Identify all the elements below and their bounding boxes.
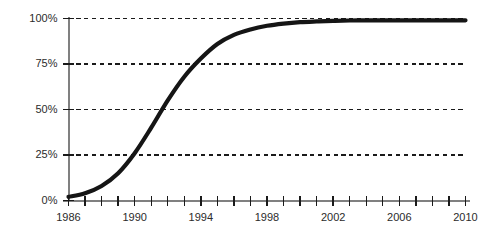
x-axis-tick-labels: 1986199019941998200220062010: [56, 211, 477, 223]
gridlines: [69, 19, 466, 156]
chart-container: 100%75%50%25%0% 198619901994199820022006…: [0, 0, 499, 243]
x-tick-label-1994: 1994: [189, 211, 213, 223]
y-tick-label-25: 25%: [35, 148, 57, 160]
data-line-adoption: [69, 20, 466, 197]
y-tick-label-100: 100%: [29, 12, 57, 24]
y-axis-tick-labels: 100%75%50%25%0%: [29, 12, 57, 206]
x-tick-label-1990: 1990: [122, 211, 146, 223]
x-tick-label-2006: 2006: [387, 211, 411, 223]
sigmoid-adoption-chart: 100%75%50%25%0% 198619901994199820022006…: [0, 0, 499, 243]
y-tick-label-75: 75%: [35, 57, 57, 69]
y-tick-label-0: 0%: [42, 194, 58, 206]
x-tick-label-1986: 1986: [56, 211, 80, 223]
x-tick-label-2002: 2002: [321, 211, 345, 223]
data-line-series: [69, 20, 466, 197]
x-tick-label-2010: 2010: [453, 211, 477, 223]
x-tick-label-1998: 1998: [255, 211, 279, 223]
y-tick-label-50: 50%: [35, 103, 57, 115]
